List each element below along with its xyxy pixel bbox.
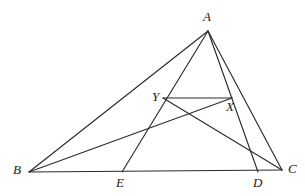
vertex-label-Y: Y (152, 90, 159, 103)
vertex-label-X: X (226, 100, 234, 113)
side-BC (29, 170, 282, 172)
segment-YC (163, 98, 282, 170)
geometry-figure: A B C D E X Y (0, 0, 305, 196)
cevian-AE (122, 31, 208, 172)
vertex-label-A: A (203, 10, 211, 23)
vertex-label-D: D (253, 176, 262, 189)
vertex-label-C: C (288, 162, 297, 175)
side-AB (29, 31, 208, 172)
side-AC (208, 31, 282, 170)
vertex-label-B: B (13, 163, 21, 176)
segment-BX (29, 98, 232, 172)
vertex-label-E: E (116, 176, 124, 189)
